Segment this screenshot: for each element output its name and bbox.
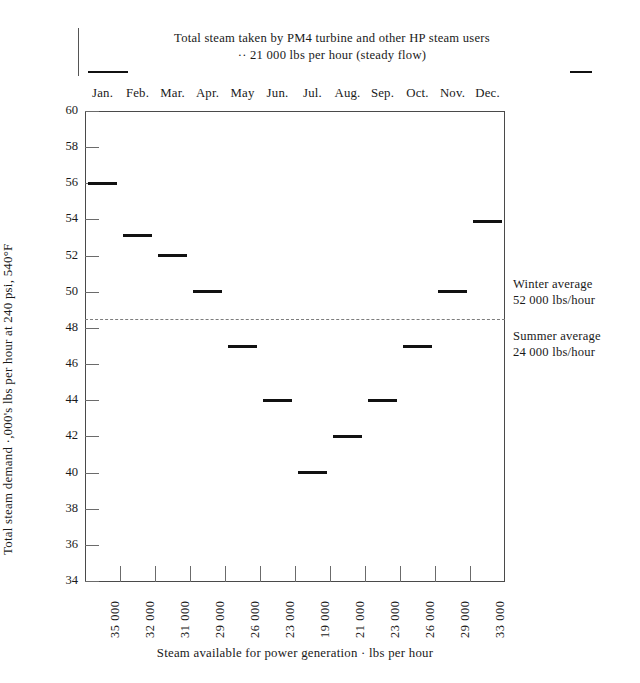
y-tick-label: 50 bbox=[50, 284, 78, 299]
x-tick-label-row: 35 00032 00031 00029 00026 00023 00019 0… bbox=[85, 586, 505, 642]
month-label: Nov. bbox=[435, 86, 470, 101]
y-tick bbox=[85, 219, 99, 220]
y-axis-line bbox=[85, 111, 86, 582]
y-tick-label: 40 bbox=[50, 465, 78, 480]
y-axis-title-text: Total steam demand ·,000's lbs per hour … bbox=[1, 243, 16, 555]
y-tick bbox=[85, 509, 99, 510]
y-tick bbox=[85, 581, 99, 582]
y-tick bbox=[85, 111, 99, 112]
x-axis-title: Steam available for power generation · l… bbox=[85, 646, 505, 661]
header-vertical-rule bbox=[78, 28, 79, 76]
month-label: Jan. bbox=[85, 86, 120, 101]
data-bar bbox=[228, 345, 257, 348]
month-label: Aug. bbox=[330, 86, 365, 101]
summer-average-label: Summer average bbox=[513, 328, 601, 344]
y-tick bbox=[85, 256, 99, 257]
y-tick-label: 54 bbox=[50, 211, 78, 226]
y-tick bbox=[85, 292, 99, 293]
plot-area bbox=[85, 111, 505, 582]
x-tick bbox=[155, 566, 156, 582]
plot-right-border bbox=[504, 111, 505, 582]
x-tick bbox=[225, 566, 226, 582]
data-bar bbox=[473, 220, 502, 223]
y-tick-label: 58 bbox=[50, 139, 78, 154]
x-tick bbox=[400, 566, 401, 582]
y-tick-label: 42 bbox=[50, 428, 78, 443]
x-tick bbox=[260, 566, 261, 582]
x-tick-label: 31 000 bbox=[178, 601, 193, 638]
chart-subtitle: ·· 21 000 lbs per hour (steady flow) bbox=[102, 47, 562, 64]
x-tick-label: 32 000 bbox=[143, 601, 158, 638]
y-tick-label: 44 bbox=[50, 392, 78, 407]
x-tick-label: 26 000 bbox=[248, 601, 263, 638]
month-label: Oct. bbox=[400, 86, 435, 101]
y-tick-label: 60 bbox=[50, 103, 78, 118]
month-label: Apr. bbox=[190, 86, 225, 101]
x-tick-label: 29 000 bbox=[213, 601, 228, 638]
y-tick-label: 56 bbox=[50, 175, 78, 190]
x-tick-label: 23 000 bbox=[388, 601, 403, 638]
winter-average-value: 52 000 lbs/hour bbox=[513, 292, 595, 308]
data-bar bbox=[123, 234, 152, 237]
winter-average-annotation: Winter average 52 000 lbs/hour bbox=[513, 276, 595, 308]
data-bar bbox=[88, 182, 117, 185]
x-tick bbox=[295, 566, 296, 582]
x-tick-label: 35 000 bbox=[108, 601, 123, 638]
chart-figure: Total steam taken by PM4 turbine and oth… bbox=[0, 0, 640, 683]
chart-header: Total steam taken by PM4 turbine and oth… bbox=[78, 28, 578, 80]
x-tick-label: 19 000 bbox=[318, 601, 333, 638]
month-label: Sep. bbox=[365, 86, 400, 101]
header-dash-right bbox=[570, 71, 592, 73]
chart-title: Total steam taken by PM4 turbine and oth… bbox=[102, 30, 562, 47]
data-bar bbox=[403, 345, 432, 348]
x-tick-label: 33 000 bbox=[493, 601, 508, 638]
x-tick-label: 26 000 bbox=[423, 601, 438, 638]
plot-top-border bbox=[85, 111, 505, 112]
month-label: Jun. bbox=[260, 86, 295, 101]
month-label: Feb. bbox=[120, 86, 155, 101]
data-bar bbox=[333, 435, 362, 438]
summer-average-value: 24 000 lbs/hour bbox=[513, 344, 601, 360]
y-tick bbox=[85, 328, 99, 329]
y-tick-label: 34 bbox=[50, 573, 78, 588]
y-tick bbox=[85, 473, 99, 474]
month-label: Mar. bbox=[155, 86, 190, 101]
data-bar bbox=[298, 471, 327, 474]
month-label: Dec. bbox=[470, 86, 505, 101]
average-reference-line bbox=[85, 319, 505, 320]
month-label: May bbox=[225, 86, 260, 101]
header-dash-left bbox=[88, 71, 128, 73]
month-label-row: Jan.Feb.Mar.Apr.MayJun.Jul.Aug.Sep.Oct.N… bbox=[85, 86, 505, 106]
y-tick-label: 38 bbox=[50, 501, 78, 516]
summer-average-annotation: Summer average 24 000 lbs/hour bbox=[513, 328, 601, 360]
data-bar bbox=[193, 290, 222, 293]
data-bar bbox=[158, 254, 187, 257]
x-tick bbox=[190, 566, 191, 582]
y-axis-title: Total steam demand ·,000's lbs per hour … bbox=[16, 135, 36, 555]
y-tick-label: 48 bbox=[50, 320, 78, 335]
data-bar bbox=[368, 399, 397, 402]
x-tick-label: 21 000 bbox=[353, 601, 368, 638]
x-tick bbox=[120, 566, 121, 582]
y-tick bbox=[85, 147, 99, 148]
y-tick bbox=[85, 545, 99, 546]
y-tick bbox=[85, 400, 99, 401]
x-tick bbox=[365, 566, 366, 582]
y-tick-label: 36 bbox=[50, 537, 78, 552]
y-tick-label: 46 bbox=[50, 356, 78, 371]
x-tick bbox=[470, 566, 471, 582]
y-tick bbox=[85, 364, 99, 365]
x-tick-label: 29 000 bbox=[458, 601, 473, 638]
x-tick-label: 23 000 bbox=[283, 601, 298, 638]
x-tick bbox=[435, 566, 436, 582]
y-tick-label: 52 bbox=[50, 248, 78, 263]
month-label: Jul. bbox=[295, 86, 330, 101]
data-bar bbox=[263, 399, 292, 402]
data-bar bbox=[438, 290, 467, 293]
y-tick bbox=[85, 436, 99, 437]
x-tick bbox=[330, 566, 331, 582]
winter-average-label: Winter average bbox=[513, 276, 595, 292]
